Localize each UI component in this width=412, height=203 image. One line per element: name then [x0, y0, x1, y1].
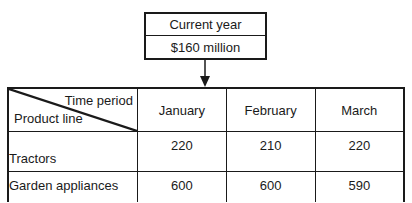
table-row: Garden appliances 600 600 590: [8, 172, 404, 203]
product-line-label: Product line: [14, 111, 83, 126]
cell-tractors-february: 210: [226, 132, 315, 172]
product-time-table: Time period Product line January Februar…: [7, 87, 405, 202]
cell-garden-march: 590: [315, 172, 404, 203]
cell-tractors-january: 220: [137, 132, 226, 172]
time-period-label: Time period: [65, 93, 133, 108]
column-header-february: February: [226, 88, 315, 132]
table-header-row: Time period Product line January Februar…: [8, 88, 404, 132]
cell-tractors-march: 220: [315, 132, 404, 172]
cell-garden-january: 600: [137, 172, 226, 203]
column-header-march: March: [315, 88, 404, 132]
row-label-tractors: Tractors: [8, 132, 137, 172]
table-row: Tractors 220 210 220: [8, 132, 404, 172]
row-label-garden-appliances: Garden appliances: [8, 172, 137, 203]
column-header-january: January: [137, 88, 226, 132]
corner-header-cell: Time period Product line: [8, 88, 137, 132]
cell-garden-february: 600: [226, 172, 315, 203]
